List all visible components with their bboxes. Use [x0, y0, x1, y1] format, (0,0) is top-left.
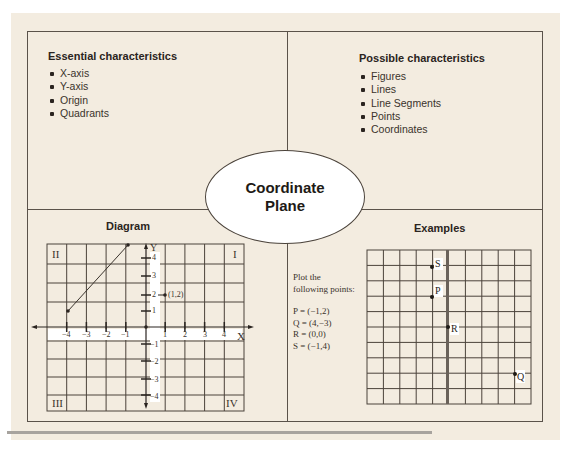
bottom-rule: [7, 431, 432, 434]
concept-title-line1: Coordinate: [245, 179, 324, 197]
center-concept-ellipse: Coordinate Plane: [205, 150, 365, 244]
concept-title-line2: Plane: [265, 197, 305, 215]
